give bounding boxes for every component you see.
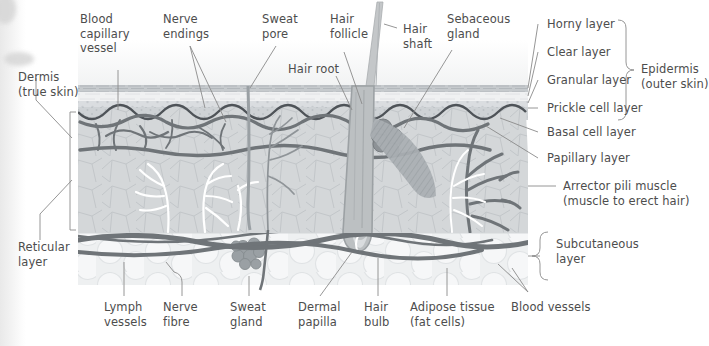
label-dermal-papilla: Dermal papilla (298, 300, 341, 329)
label-subcutaneous-layer: Subcutaneous layer (556, 237, 639, 266)
label-granular-layer: Granular layer (547, 73, 631, 88)
label-prickle-cell-layer: Prickle cell layer (547, 101, 643, 116)
label-hair-shaft: Hair shaft (403, 22, 432, 51)
label-clear-layer: Clear layer (547, 45, 611, 60)
label-nerve-fibre: Nerve fibre (163, 300, 198, 329)
label-basal-cell-layer: Basal cell layer (547, 125, 636, 140)
leader-reticular-layer (40, 180, 72, 240)
label-sebaceous-gland: Sebaceous gland (447, 12, 510, 41)
label-arrector-pili-muscle: Arrector pili muscle (muscle to erect ha… (563, 179, 689, 208)
label-nerve-endings: Nerve endings (163, 12, 209, 41)
label-epidermis: Epidermis (outer skin) (641, 62, 709, 91)
label-adipose-tissue: Adipose tissue (fat cells) (410, 300, 495, 329)
label-lymph-vessels: Lymph vessels (104, 300, 147, 329)
label-reticular-layer: Reticular layer (18, 240, 70, 269)
leader-hair-shaft (384, 24, 397, 28)
label-blood-vessels: Blood vessels (511, 300, 591, 315)
label-sweat-pore: Sweat pore (262, 12, 298, 41)
label-horny-layer: Horny layer (547, 17, 615, 32)
label-hair-follicle: Hair follicle (330, 12, 368, 41)
leader-horny-layer (528, 24, 538, 88)
label-sweat-gland: Sweat gland (230, 300, 266, 329)
leader-granular-layer (528, 80, 538, 103)
label-hair-root: Hair root (288, 62, 339, 77)
label-blood-capillary-vessel: Blood capillary vessel (80, 12, 130, 56)
label-dermis: Dermis (true skin) (18, 70, 78, 99)
bracket-dermis (70, 112, 76, 230)
label-hair-bulb: Hair bulb (364, 300, 389, 329)
label-papillary-layer: Papillary layer (547, 151, 630, 166)
